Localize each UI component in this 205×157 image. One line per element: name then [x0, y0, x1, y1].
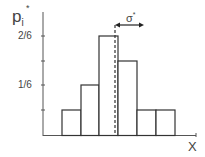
- sigma-symbol: σ: [126, 12, 133, 24]
- y-label-superscript: *: [26, 4, 30, 13]
- sigma-superscript: *: [133, 11, 136, 18]
- bar-6: [156, 110, 175, 136]
- y-tick-label-1-6: 1/6: [18, 80, 32, 90]
- bar-1: [62, 110, 81, 136]
- y-tick-label-2-6: 2/6: [18, 31, 32, 41]
- bar-5: [137, 110, 156, 136]
- bar-2: [81, 85, 99, 136]
- bars: [62, 36, 175, 136]
- bar-4: [118, 61, 137, 136]
- x-axis-label: X: [188, 140, 197, 153]
- sigma-label: σ*: [126, 11, 136, 24]
- y-axis-label: pi: [12, 8, 24, 28]
- y-label-sub: i: [21, 17, 23, 28]
